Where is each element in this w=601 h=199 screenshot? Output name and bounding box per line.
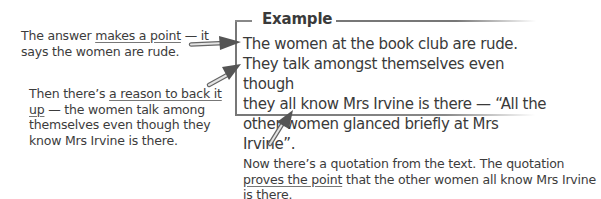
point-arrow-icon: [191, 36, 241, 50]
reason-arrow-icon: [209, 64, 241, 85]
quotation-arrow-icon: [270, 110, 293, 144]
